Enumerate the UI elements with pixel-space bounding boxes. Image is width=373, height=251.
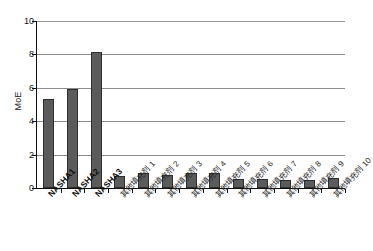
- x-axis-tick-labels: NASHA1NASHA2NASHA3其他填充剂 1其他填充剂 2其他填充剂 3其…: [0, 0, 355, 251]
- bar-chart: MoE 0246810 NASHA1NASHA2NASHA3其他填充剂 1其他填…: [0, 0, 355, 251]
